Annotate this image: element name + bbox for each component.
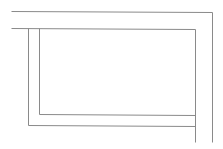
inner-bottom-line <box>40 115 196 116</box>
frame-bottom-line <box>29 126 196 127</box>
outer-top-line <box>12 12 213 13</box>
wireframe-diagram <box>0 0 223 149</box>
